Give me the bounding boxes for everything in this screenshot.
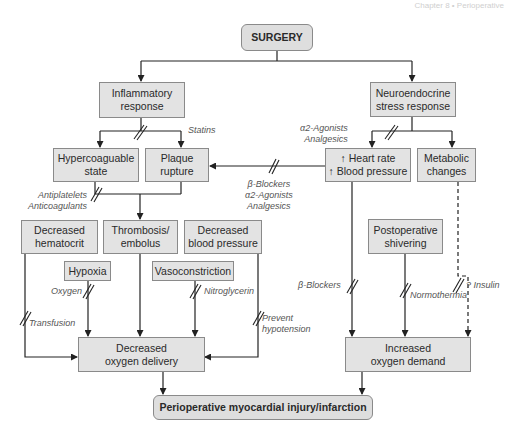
label-nitroglycerin: Nitroglycerin (204, 286, 254, 297)
node-metabolic-changes: Metabolic changes (417, 148, 476, 182)
label-transfusion: Transfusion (29, 318, 75, 329)
label-normothermia: Normothermia (410, 290, 467, 301)
node-decreased-oxygen-delivery: Decreased oxygen delivery (78, 337, 205, 372)
node-thrombosis-embolus: Thrombosis/ embolus (103, 220, 178, 254)
node-hypoxia: Hypoxia (64, 261, 111, 281)
node-decreased-blood-pressure: Decreased blood pressure (184, 220, 262, 254)
label-statins: Statins (188, 125, 216, 136)
label-oxygen: Oxygen (51, 286, 82, 297)
node-neuroendocrine-stress-response: Neuroendocrine stress response (370, 82, 456, 117)
node-postoperative-shivering: Postoperative shivering (368, 219, 443, 254)
node-inflammatory-response: Inflammatory response (99, 82, 185, 118)
label-antiplatelets-anticoagulants: Antiplatelets Anticoagulants (28, 190, 87, 212)
label-insulin: ? Insulin (466, 280, 500, 291)
node-decreased-hematocrit: Decreased hematocrit (21, 220, 98, 254)
node-surgery: SURGERY (241, 24, 313, 51)
node-increased-oxygen-demand: Increased oxygen demand (345, 337, 471, 372)
label-prevent-hypotension: Prevent hypotension (262, 313, 311, 335)
label-beta-alpha-analgesics: β-Blockers α2-Agonists Analgesics (245, 179, 293, 212)
node-vasoconstriction: Vasoconstriction (152, 261, 234, 281)
node-perioperative-myocardial-injury: Perioperative myocardial injury/infarcti… (153, 395, 373, 420)
node-plaque-rupture: Plaque rupture (145, 148, 209, 182)
label-alpha-agonists-analgesics: α2-Agonists Analgesics (300, 123, 348, 145)
node-hypercoagulable-state: Hypercoaguable state (53, 148, 139, 182)
node-heart-rate-blood-pressure: ↑ Heart rate ↑ Blood pressure (325, 148, 411, 182)
label-beta-blockers: β-Blockers (298, 280, 341, 291)
